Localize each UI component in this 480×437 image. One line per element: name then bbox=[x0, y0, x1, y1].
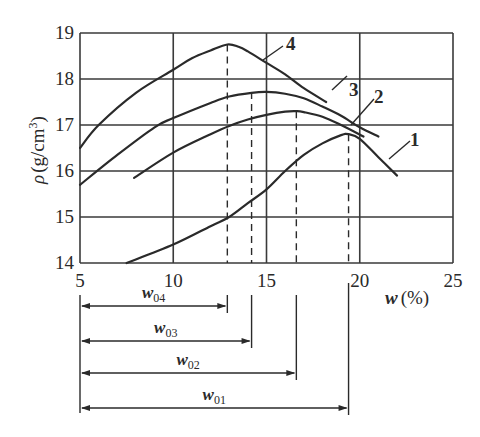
compaction-curves bbox=[80, 44, 397, 263]
curve-4 bbox=[80, 44, 326, 148]
dimension-label-w04: w04 bbox=[142, 283, 165, 305]
arrowhead-right-icon bbox=[339, 405, 348, 411]
curve-label-1: 1 bbox=[410, 129, 420, 150]
arrowhead-right-icon bbox=[217, 303, 226, 309]
x-axis-label: w(%) bbox=[385, 287, 429, 309]
arrowhead-left-icon bbox=[81, 303, 90, 309]
curve-label-3: 3 bbox=[349, 79, 359, 100]
curve-labels: 1234 bbox=[263, 33, 420, 159]
curve-label-4: 4 bbox=[286, 33, 296, 54]
dimension-label-w02: w02 bbox=[176, 350, 199, 372]
arrowhead-left-icon bbox=[81, 405, 90, 411]
y-tick-label: 19 bbox=[55, 22, 74, 43]
curve-1 bbox=[127, 134, 397, 263]
x-tick-label: 10 bbox=[164, 270, 183, 291]
y-tick-label: 15 bbox=[55, 206, 74, 227]
moisture-density-chart: 1234 510152025141516171819 w04w03w02w01 … bbox=[0, 0, 480, 437]
arrowhead-left-icon bbox=[81, 338, 90, 344]
curve-label-2: 2 bbox=[374, 86, 384, 107]
arrowhead-right-icon bbox=[286, 370, 295, 376]
x-tick-label: 25 bbox=[444, 270, 463, 291]
optimum-moisture-dimension-arrows: w04w03w02w01 bbox=[80, 283, 349, 415]
plot-grid bbox=[80, 33, 453, 263]
y-tick-label: 14 bbox=[55, 252, 75, 273]
y-tick-label: 18 bbox=[55, 68, 74, 89]
dimension-label-w01: w01 bbox=[203, 385, 226, 407]
y-tick-label: 16 bbox=[55, 160, 74, 181]
curve-leader-2 bbox=[351, 99, 374, 125]
dimension-label-w03: w03 bbox=[154, 318, 177, 340]
x-tick-label: 20 bbox=[350, 270, 369, 291]
y-axis-label: ρ(g/cm3) bbox=[26, 116, 49, 185]
y-tick-label: 17 bbox=[55, 114, 74, 135]
curve-leader-3 bbox=[332, 76, 347, 90]
arrowhead-left-icon bbox=[81, 370, 90, 376]
x-tick-label: 5 bbox=[75, 270, 85, 291]
arrowhead-right-icon bbox=[242, 338, 251, 344]
curve-leader-1 bbox=[389, 141, 410, 159]
x-tick-label: 15 bbox=[257, 270, 276, 291]
